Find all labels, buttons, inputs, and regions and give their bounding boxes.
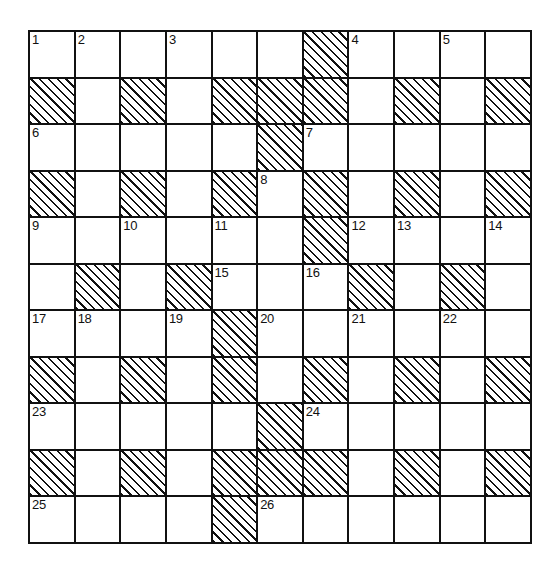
open-square[interactable] — [76, 218, 122, 265]
open-square[interactable] — [76, 125, 122, 172]
open-square[interactable] — [441, 218, 487, 265]
open-square[interactable] — [167, 451, 213, 498]
open-square[interactable]: 4 — [349, 32, 395, 79]
blocked-square — [304, 218, 350, 265]
open-square[interactable] — [167, 358, 213, 405]
blocked-square — [258, 451, 304, 498]
blocked-square — [395, 172, 441, 219]
clue-number: 23 — [32, 404, 46, 419]
open-square[interactable] — [349, 172, 395, 219]
blocked-square — [486, 172, 532, 219]
open-square[interactable] — [121, 404, 167, 451]
open-square[interactable] — [30, 265, 76, 312]
open-square[interactable]: 21 — [349, 311, 395, 358]
open-square[interactable] — [258, 32, 304, 79]
open-square[interactable] — [486, 32, 532, 79]
open-square[interactable]: 23 — [30, 404, 76, 451]
open-square[interactable] — [441, 404, 487, 451]
open-square[interactable] — [349, 358, 395, 405]
clue-number: 10 — [123, 218, 137, 233]
blocked-square — [258, 125, 304, 172]
open-square[interactable] — [486, 404, 532, 451]
open-square[interactable] — [441, 358, 487, 405]
open-square[interactable] — [486, 311, 532, 358]
open-square[interactable]: 11 — [213, 218, 259, 265]
open-square[interactable]: 20 — [258, 311, 304, 358]
open-square[interactable] — [395, 404, 441, 451]
open-square[interactable] — [304, 497, 350, 544]
open-square[interactable] — [121, 497, 167, 544]
open-square[interactable] — [167, 218, 213, 265]
open-square[interactable]: 14 — [486, 218, 532, 265]
open-square[interactable]: 2 — [76, 32, 122, 79]
clue-number: 4 — [351, 32, 358, 47]
open-square[interactable]: 19 — [167, 311, 213, 358]
open-square[interactable]: 9 — [30, 218, 76, 265]
open-square[interactable] — [395, 497, 441, 544]
open-square[interactable] — [76, 79, 122, 126]
open-square[interactable]: 7 — [304, 125, 350, 172]
open-square[interactable]: 1 — [30, 32, 76, 79]
open-square[interactable] — [395, 265, 441, 312]
open-square[interactable] — [258, 265, 304, 312]
open-square[interactable] — [349, 79, 395, 126]
open-square[interactable] — [486, 497, 532, 544]
open-square[interactable] — [395, 311, 441, 358]
open-square[interactable] — [304, 311, 350, 358]
clue-number: 15 — [215, 265, 229, 280]
open-square[interactable] — [76, 497, 122, 544]
open-square[interactable] — [395, 32, 441, 79]
open-square[interactable]: 26 — [258, 497, 304, 544]
open-square[interactable] — [395, 125, 441, 172]
open-square[interactable]: 8 — [258, 172, 304, 219]
clue-number: 8 — [260, 172, 267, 187]
open-square[interactable] — [76, 172, 122, 219]
open-square[interactable] — [213, 404, 259, 451]
open-square[interactable] — [121, 32, 167, 79]
open-square[interactable]: 16 — [304, 265, 350, 312]
open-square[interactable] — [441, 451, 487, 498]
open-square[interactable]: 10 — [121, 218, 167, 265]
open-square[interactable] — [167, 404, 213, 451]
open-square[interactable] — [167, 497, 213, 544]
open-square[interactable]: 25 — [30, 497, 76, 544]
open-square[interactable] — [167, 79, 213, 126]
open-square[interactable]: 17 — [30, 311, 76, 358]
open-square[interactable] — [349, 404, 395, 451]
open-square[interactable] — [349, 125, 395, 172]
open-square[interactable] — [213, 125, 259, 172]
open-square[interactable]: 6 — [30, 125, 76, 172]
open-square[interactable]: 15 — [213, 265, 259, 312]
open-square[interactable] — [349, 497, 395, 544]
open-square[interactable] — [258, 218, 304, 265]
open-square[interactable]: 18 — [76, 311, 122, 358]
open-square[interactable] — [121, 125, 167, 172]
blocked-square — [76, 265, 122, 312]
open-square[interactable] — [486, 125, 532, 172]
open-square[interactable]: 24 — [304, 404, 350, 451]
open-square[interactable] — [486, 265, 532, 312]
open-square[interactable] — [441, 125, 487, 172]
open-square[interactable] — [349, 451, 395, 498]
open-square[interactable]: 13 — [395, 218, 441, 265]
open-square[interactable] — [76, 404, 122, 451]
clue-number: 18 — [78, 311, 92, 326]
open-square[interactable] — [76, 358, 122, 405]
open-square[interactable]: 5 — [441, 32, 487, 79]
open-square[interactable]: 22 — [441, 311, 487, 358]
open-square[interactable] — [167, 125, 213, 172]
open-square[interactable]: 12 — [349, 218, 395, 265]
open-square[interactable]: 3 — [167, 32, 213, 79]
open-square[interactable] — [258, 358, 304, 405]
blocked-square — [258, 404, 304, 451]
open-square[interactable] — [121, 265, 167, 312]
clue-number: 3 — [169, 32, 176, 47]
open-square[interactable] — [213, 32, 259, 79]
open-square[interactable] — [441, 79, 487, 126]
open-square[interactable] — [441, 172, 487, 219]
open-square[interactable] — [441, 497, 487, 544]
open-square[interactable] — [76, 451, 122, 498]
open-square[interactable] — [167, 172, 213, 219]
open-square[interactable] — [121, 311, 167, 358]
clue-number: 1 — [32, 32, 39, 47]
